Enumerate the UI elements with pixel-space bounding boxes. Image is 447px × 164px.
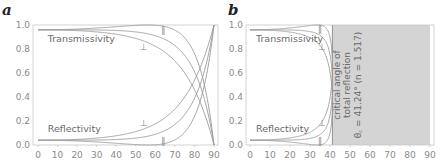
- x-tick-label: 70: [384, 150, 396, 160]
- x-tick-label: 80: [404, 150, 416, 160]
- y-tick-label: 0.0: [229, 140, 244, 150]
- x-tick-label: 0: [247, 150, 253, 160]
- x-tick-label: 10: [52, 150, 64, 160]
- panel-a-letter: a: [2, 1, 12, 19]
- y-tick-label: 0.8: [229, 44, 244, 54]
- perpendicular-marker: ⊥: [140, 42, 148, 52]
- perpendicular-marker: ⊥: [140, 118, 148, 128]
- x-tick-label: 50: [344, 150, 356, 160]
- x-tick-label: 0: [35, 150, 41, 160]
- x-tick-label: 30: [91, 150, 103, 160]
- panel-b-letter: b: [228, 1, 239, 19]
- x-tick-label: 90: [424, 150, 436, 160]
- x-tick-label: 50: [130, 150, 142, 160]
- y-tick-label: 0.2: [229, 116, 243, 126]
- y-tick-label: 0.4: [229, 92, 244, 102]
- x-tick-label: 70: [169, 150, 181, 160]
- chart-canvas: a 01020304050607080900.00.20.40.60.81.0 …: [0, 0, 447, 164]
- x-tick-label: 80: [189, 150, 201, 160]
- x-tick-label: 60: [364, 150, 376, 160]
- x-tick-label: 30: [304, 150, 316, 160]
- x-tick-label: 90: [208, 150, 220, 160]
- y-tick-label: 0.2: [16, 116, 30, 126]
- panel-b: b 01020304050607080900.00.20.40.60.81.0 …: [228, 1, 436, 160]
- y-tick-label: 1.0: [16, 20, 31, 30]
- perpendicular-marker: ⊥: [318, 42, 326, 52]
- parallel-marker: ∥: [161, 136, 166, 146]
- y-tick-label: 1.0: [229, 20, 244, 30]
- x-tick-label: 20: [71, 150, 83, 160]
- annotation-line-1: critical angle of: [332, 49, 342, 119]
- parallel-marker: ∥: [318, 24, 323, 34]
- parallel-marker: ∥: [161, 25, 166, 35]
- chart-figure: a 01020304050607080900.00.20.40.60.81.0 …: [0, 0, 447, 164]
- transmissivity-label: Transmissivity: [255, 33, 324, 44]
- y-tick-label: 0.6: [16, 68, 31, 78]
- reflectivity-label: Reflectivity: [48, 123, 101, 134]
- x-tick-label: 40: [110, 150, 122, 160]
- perpendicular-marker: ⊥: [318, 118, 326, 128]
- reflectivity-label: Reflectivity: [256, 123, 309, 134]
- panel-a-labels: TransmissivityReflectivity⊥∥⊥∥: [47, 25, 166, 147]
- transmissivity-label: Transmissivity: [47, 33, 116, 44]
- x-tick-label: 60: [150, 150, 162, 160]
- panel-b-labels: TransmissivityReflectivity⊥∥⊥∥: [255, 24, 326, 147]
- parallel-marker: ∥: [318, 136, 323, 146]
- y-tick-label: 0.4: [16, 92, 31, 102]
- x-tick-label: 10: [264, 150, 276, 160]
- y-tick-label: 0.8: [16, 44, 31, 54]
- x-tick-label: 40: [324, 150, 336, 160]
- x-tick-label: 20: [284, 150, 296, 160]
- y-tick-label: 0.0: [16, 140, 31, 150]
- annotation-line-3: θ꜀ = 41.24° (n = 1.517): [353, 32, 363, 139]
- y-tick-label: 0.6: [229, 68, 244, 78]
- annotation-line-2: total reflection: [342, 52, 352, 118]
- panel-a: a 01020304050607080900.00.20.40.60.81.0 …: [2, 1, 220, 160]
